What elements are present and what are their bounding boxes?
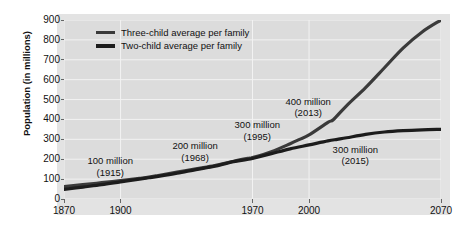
annotation-year: (2013) [285,107,330,119]
annotation-value: 100 million [88,155,133,166]
annotation-year: (1995) [235,131,280,143]
x-tick-mark [441,199,442,203]
legend-item-two-child: Two-child average per family [96,39,249,52]
x-tick-label: 1970 [233,206,273,216]
annotation-400-million-2013: 400 million(2013) [285,96,330,119]
line-swatch-two-child-icon [96,44,115,48]
chart-figure: 0100200300400500600700800900 Population … [0,0,465,231]
line-swatch-three-child-icon [96,31,115,35]
annotation-year: (2015) [333,155,378,167]
x-tick-mark [120,199,121,203]
x-tick-mark [309,199,310,203]
x-tick-label: 2000 [289,206,329,216]
annotation-year: (1968) [172,152,217,164]
chart-legend: Three-child average per family Two-child… [96,26,249,52]
annotation-value: 200 million [172,140,217,151]
x-tick-label: 1870 [44,206,84,216]
annotation-200-million-1968: 200 million(1968) [172,140,217,163]
annotation-value: 300 million [333,144,378,155]
annotation-year: (1915) [88,167,133,179]
x-tick-label: 2070 [421,206,461,216]
x-tick-label: 1900 [101,206,141,216]
annotation-value: 400 million [285,96,330,107]
x-tick-mark [64,199,65,203]
legend-item-three-child: Three-child average per family [96,26,249,39]
annotation-value: 300 million [235,119,280,130]
annotation-100-million-1915: 100 million(1915) [88,155,133,178]
legend-label-three-child: Three-child average per family [121,27,249,38]
legend-label-two-child: Two-child average per family [121,40,242,51]
x-tick-mark [252,199,253,203]
annotation-300-million-2015: 300 million(2015) [333,144,378,167]
annotation-300-million-1995: 300 million(1995) [235,119,280,142]
